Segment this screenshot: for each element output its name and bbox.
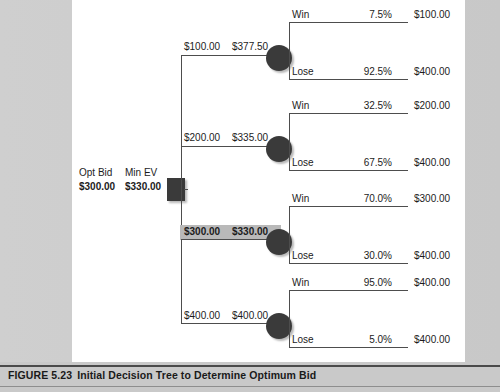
outcome-payoff-1-lose: $400.00 (414, 66, 450, 77)
outcome-spine-1 (289, 22, 290, 79)
outcome-line-1-lose (289, 79, 408, 80)
branch-label-1: $100.00$377.50 (184, 41, 268, 52)
outcome-payoff-3-lose: $400.00 (414, 250, 450, 261)
root-summary: Opt BidMin EV $300.00$330.00 (79, 167, 161, 192)
outcome-prob-1-win: 7.5% (344, 9, 392, 20)
branch-line-3 (181, 239, 279, 240)
outcome-prob-4-win: 95.0% (344, 277, 392, 288)
outcome-line-4-win (289, 290, 408, 291)
outcome-name-4-win: Win (292, 277, 309, 288)
outcome-payoff-4-win: $400.00 (414, 277, 450, 288)
outcome-line-3-win (289, 206, 408, 207)
outcome-name-2-win: Win (292, 100, 309, 111)
outcome-name-3-win: Win (292, 193, 309, 204)
branch-label-2: $200.00$335.00 (184, 132, 268, 143)
branch-label-4: $400.00$400.00 (184, 310, 268, 321)
branch-bid-4: $400.00 (184, 310, 232, 321)
branch-line-4 (181, 323, 279, 324)
decision-node-connector (184, 189, 188, 190)
outcome-line-1-win (289, 22, 408, 23)
outcome-payoff-1-win: $100.00 (414, 9, 450, 20)
figure-caption: FIGURE 5.23Initial Decision Tree to Dete… (8, 369, 316, 381)
branch-bid-2: $200.00 (184, 132, 232, 143)
outcome-line-2-win (289, 113, 408, 114)
caption-rule-bottom (0, 386, 500, 387)
outcome-prob-4-lose: 5.0% (344, 334, 392, 345)
outcome-spine-4 (289, 290, 290, 347)
branch-bid-3: $300.00 (184, 226, 232, 237)
outcome-prob-2-win: 32.5% (344, 100, 392, 111)
outcome-payoff-2-lose: $400.00 (414, 157, 450, 168)
outcome-spine-3 (289, 206, 290, 263)
outcome-prob-2-lose: 67.5% (344, 157, 392, 168)
min-ev-label: Min EV (125, 167, 157, 178)
branch-bid-1: $100.00 (184, 41, 232, 52)
opt-bid-label: Opt Bid (79, 167, 125, 178)
outcome-prob-3-win: 70.0% (344, 193, 392, 204)
branch-label-3: $300.00$330.00 (184, 226, 268, 237)
branch-line-2 (181, 146, 279, 147)
outcome-spine-2 (289, 113, 290, 170)
branch-ev-1: $377.50 (232, 41, 268, 52)
caption-rule-top (0, 365, 500, 367)
decision-spine-line (181, 55, 182, 323)
figure-caption-number: FIGURE 5.23 (8, 369, 72, 381)
branch-ev-3: $330.00 (232, 226, 268, 237)
branch-ev-4: $400.00 (232, 310, 268, 321)
outcome-name-4-lose: Lose (292, 334, 314, 345)
outcome-name-1-lose: Lose (292, 66, 314, 77)
outcome-name-1-win: Win (292, 9, 309, 20)
outcome-line-2-lose (289, 170, 408, 171)
outcome-prob-1-lose: 92.5% (344, 66, 392, 77)
branch-line-1 (181, 55, 279, 56)
outcome-name-2-lose: Lose (292, 157, 314, 168)
outcome-payoff-3-win: $300.00 (414, 193, 450, 204)
outcome-name-3-lose: Lose (292, 250, 314, 261)
opt-bid-value: $300.00 (79, 181, 125, 192)
outcome-payoff-2-win: $200.00 (414, 100, 450, 111)
outcome-line-3-lose (289, 263, 408, 264)
branch-ev-2: $335.00 (232, 132, 268, 143)
decision-node-square[interactable] (167, 178, 185, 201)
outcome-line-4-lose (289, 347, 408, 348)
outcome-prob-3-lose: 30.0% (344, 250, 392, 261)
figure-caption-title: Initial Decision Tree to Determine Optim… (77, 369, 316, 381)
min-ev-value: $330.00 (125, 181, 161, 192)
outcome-payoff-4-lose: $400.00 (414, 334, 450, 345)
